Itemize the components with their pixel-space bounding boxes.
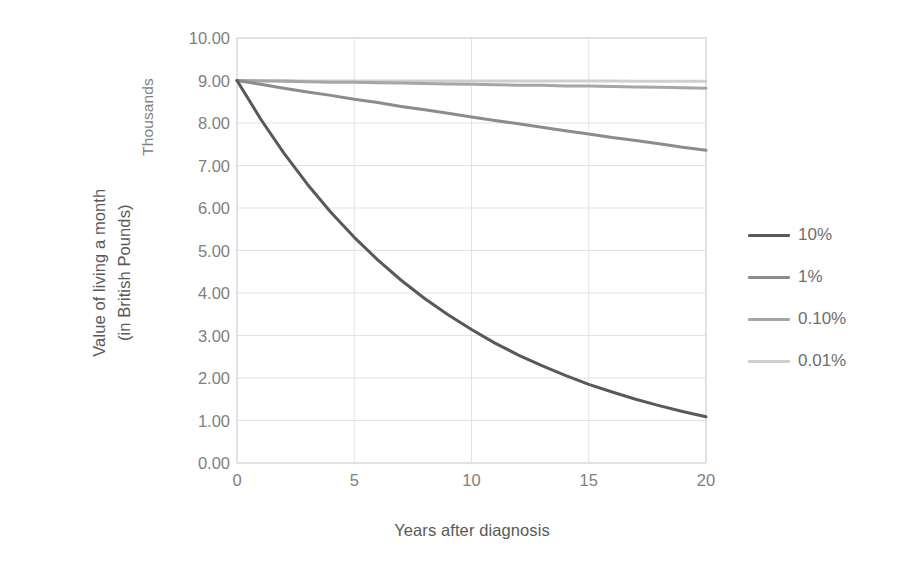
legend-label: 1% [798, 267, 823, 287]
legend-label: 0.10% [798, 309, 846, 329]
legend-label: 0.01% [798, 351, 846, 371]
legend-line-swatch-icon [748, 360, 790, 363]
legend-item[interactable]: 10% [748, 214, 908, 256]
chart-container: Value of living a month (in British Poun… [0, 0, 916, 571]
x-axis-title: Years after diagnosis [237, 521, 707, 540]
legend-line-swatch-icon [748, 318, 790, 321]
legend-item[interactable]: 0.10% [748, 298, 908, 340]
legend-label: 10% [798, 225, 832, 245]
legend-line-swatch-icon [748, 234, 790, 237]
legend-line-swatch-icon [748, 276, 790, 279]
chart-legend: 10%1%0.10%0.01% [748, 214, 908, 382]
legend-item[interactable]: 0.01% [748, 340, 908, 382]
legend-item[interactable]: 1% [748, 256, 908, 298]
